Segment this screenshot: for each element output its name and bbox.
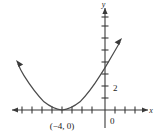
x-axis-arrowhead-icon xyxy=(142,107,148,112)
x-axis-left-arrowhead-icon xyxy=(12,107,18,112)
coordinate-plane-svg: y x 0 2 (−4, 0) xyxy=(0,0,158,137)
y-intercept-label: 2 xyxy=(113,83,118,93)
curve-right-arrowhead-icon xyxy=(115,38,122,45)
origin-label: 0 xyxy=(110,116,115,126)
y-axis-label: y xyxy=(101,0,106,9)
x-axis-label: x xyxy=(148,106,153,115)
vertex-point-label: (−4, 0) xyxy=(50,121,75,131)
parabola-graph-figure: y x 0 2 (−4, 0) xyxy=(0,0,158,137)
curve-left-arrowhead-icon xyxy=(16,60,23,67)
